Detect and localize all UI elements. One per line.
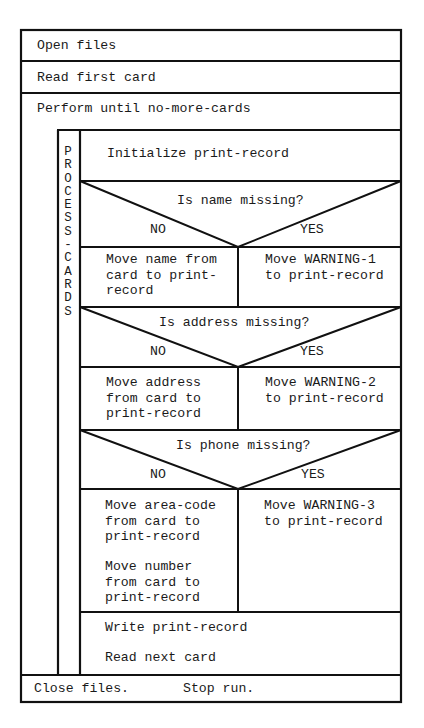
decision-1-yes-label: YES [300, 222, 324, 238]
decision-2-question: Is address missing? [159, 315, 309, 331]
step-open-files: Open files [37, 38, 116, 54]
decision-3-no-action-1: Move area-code from card to print-record [105, 498, 216, 545]
decision-1-yes-action: Move WARNING-1 to print-record [265, 252, 384, 283]
step-close-files: Close files. [34, 681, 129, 697]
step-read-next-card: Read next card [105, 650, 216, 666]
decision-3-question: Is phone missing? [176, 438, 311, 454]
decision-1-no-action: Move name from card to print- record [106, 252, 217, 299]
decision-3-no-label: NO [150, 467, 166, 483]
decision-3-no-action-2: Move number from card to print-record [105, 559, 200, 606]
decision-1-triangle [80, 181, 401, 247]
step-loop-condition: Perform until no-more-cards [37, 101, 251, 117]
step-initialize: Initialize print-record [107, 146, 289, 162]
decision-2-no-label: NO [150, 344, 166, 360]
procedure-name-label: P R O C E S S - C A R D S [61, 146, 75, 319]
step-write-print-record: Write print-record [105, 620, 247, 636]
step-stop-run: Stop run. [183, 681, 254, 697]
decision-1-question: Is name missing? [177, 193, 304, 209]
decision-1-no-label: NO [150, 222, 166, 238]
decision-3-yes-label: YES [301, 467, 325, 483]
nassi-shneiderman-diagram: Open files Read first card Perform until… [0, 0, 424, 728]
decision-3-yes-action: Move WARNING-3 to print-record [264, 498, 383, 529]
decision-2-no-action: Move address from card to print-record [106, 375, 201, 422]
decision-2-yes-label: YES [300, 344, 324, 360]
step-read-first-card: Read first card [37, 70, 156, 86]
decision-2-yes-action: Move WARNING-2 to print-record [265, 375, 384, 406]
